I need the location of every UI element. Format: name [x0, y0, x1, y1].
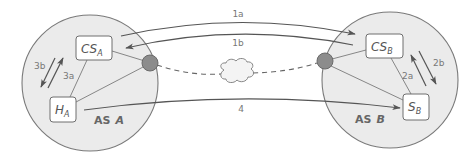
- border-router-b-icon: [317, 53, 333, 69]
- as-b: [322, 12, 458, 148]
- server-b-node: SB: [403, 94, 429, 120]
- label-3b: 3b: [34, 61, 46, 71]
- label-4: 4: [238, 104, 244, 114]
- label-2a: 2a: [402, 71, 413, 81]
- label-2b: 2b: [433, 58, 445, 68]
- dashed-link-left: [157, 65, 221, 74]
- as-b-label: ASB: [355, 113, 385, 126]
- cs-a-node: CSA: [76, 36, 112, 60]
- border-router-a-icon: [142, 55, 158, 71]
- as-communication-diagram: 1a 1b 4 3b 3a 2a 2b CSA HA CSB SB ASA AS…: [0, 0, 473, 156]
- internet-cloud-icon: [221, 58, 254, 82]
- label-3a: 3a: [63, 71, 74, 81]
- as-b-circle: [322, 12, 458, 148]
- as-a-label: ASA: [94, 114, 124, 127]
- label-1b: 1b: [232, 38, 244, 48]
- cs-b-node: CSB: [366, 34, 403, 58]
- label-1a: 1a: [232, 9, 243, 19]
- host-a-node: HA: [50, 97, 76, 122]
- dashed-link-right: [253, 63, 317, 73]
